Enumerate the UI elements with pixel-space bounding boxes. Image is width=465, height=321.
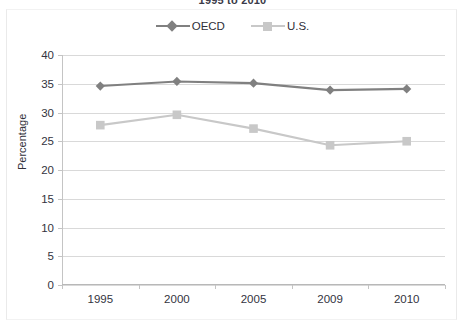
y-tick-label: 10	[41, 222, 54, 234]
x-tick-mark	[445, 285, 446, 289]
y-tick-label: 0	[48, 279, 54, 291]
legend-diamond-oecd	[166, 20, 177, 31]
series-oecd	[96, 77, 412, 95]
diamond-marker-icon	[156, 20, 190, 32]
diamond-marker-icon	[326, 85, 335, 94]
series-container	[62, 55, 445, 285]
y-tick-label: 15	[41, 193, 54, 205]
chart-figure: 1995 to 2010 OECD U.S. Percentage 051015…	[0, 0, 465, 321]
plot-area: 0510152025303540 19952000200520092010	[62, 55, 445, 285]
x-tick-label: 2010	[394, 293, 420, 305]
y-axis-title: Percentage	[16, 114, 28, 170]
y-tick-label: 40	[41, 49, 54, 61]
diamond-marker-icon	[96, 81, 105, 90]
x-tick-mark	[292, 285, 293, 289]
y-tick-label: 30	[41, 107, 54, 119]
square-marker-icon	[251, 20, 285, 32]
diamond-marker-icon	[249, 79, 258, 88]
square-marker-icon	[402, 137, 411, 146]
square-marker-icon	[249, 124, 258, 133]
chart-title: 1995 to 2010	[0, 0, 465, 6]
legend-label-us: U.S.	[287, 20, 309, 32]
diamond-marker-icon	[402, 84, 411, 93]
x-tick-label: 1995	[88, 293, 114, 305]
series-u-s	[96, 111, 411, 150]
x-tick-mark	[368, 285, 369, 289]
x-tick-mark	[139, 285, 140, 289]
legend-item-oecd[interactable]: OECD	[156, 20, 225, 32]
chart-legend: OECD U.S.	[0, 20, 465, 32]
diamond-marker-icon	[172, 77, 181, 86]
square-marker-icon	[96, 121, 105, 130]
x-tick-label: 2000	[164, 293, 190, 305]
y-tick-label: 25	[41, 135, 54, 147]
gridline	[62, 285, 445, 286]
y-tick-label: 35	[41, 78, 54, 90]
x-tick-label: 2005	[241, 293, 267, 305]
y-tick-label: 20	[41, 164, 54, 176]
square-marker-icon	[173, 111, 182, 120]
x-tick-label: 2009	[317, 293, 343, 305]
legend-square-us	[263, 22, 272, 31]
x-tick-mark	[215, 285, 216, 289]
legend-item-us[interactable]: U.S.	[251, 20, 309, 32]
square-marker-icon	[326, 141, 335, 150]
y-tick-label: 5	[48, 250, 54, 262]
legend-label-oecd: OECD	[192, 20, 225, 32]
x-tick-mark	[62, 285, 63, 289]
